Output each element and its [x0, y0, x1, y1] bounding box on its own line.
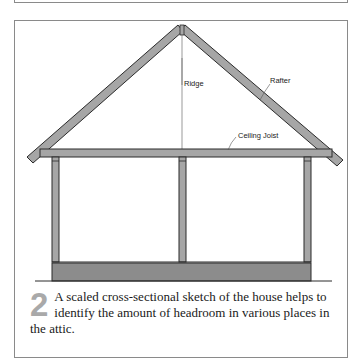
caption-text: A scaled cross-sectional sketch of the h… — [30, 289, 329, 336]
rafter-label: Rafter — [270, 76, 291, 85]
figure-caption: 2 A scaled cross-sectional sketch of the… — [30, 289, 330, 337]
ridge-label: Ridge — [184, 79, 204, 88]
ceiling-joist-label: Ceiling Joist — [238, 131, 279, 140]
right-wall — [304, 157, 311, 262]
step-number: 2 — [30, 291, 48, 319]
ceiling-joist — [40, 149, 332, 157]
ceiling-joist-leader-line — [228, 137, 236, 150]
left-wall — [52, 157, 59, 262]
left-rafter — [27, 25, 183, 163]
center-wall — [179, 157, 186, 262]
right-rafter — [180, 25, 343, 166]
ridge-board — [180, 25, 184, 35]
foundation — [52, 263, 311, 281]
